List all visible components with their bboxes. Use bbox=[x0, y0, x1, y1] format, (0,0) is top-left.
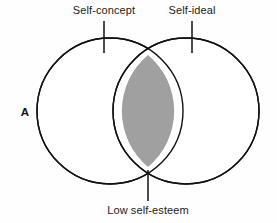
venn-diagram: Self-concept Self-ideal Low self-esteem … bbox=[0, 0, 277, 223]
panel-letter: A bbox=[21, 106, 29, 118]
label-self-concept: Self-concept bbox=[73, 4, 135, 16]
figure-root: Self-concept Self-ideal Low self-esteem … bbox=[0, 0, 277, 223]
label-low-self-esteem: Low self-esteem bbox=[107, 204, 189, 216]
label-self-ideal: Self-ideal bbox=[169, 4, 216, 16]
